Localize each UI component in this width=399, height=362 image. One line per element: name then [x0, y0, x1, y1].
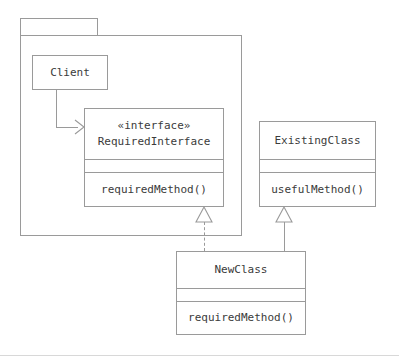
- operation-required-interface-0: requiredMethod(): [101, 182, 207, 198]
- class-box-new-class[interactable]: NewClass requiredMethod(): [176, 251, 306, 335]
- class-header-new-class: NewClass: [177, 252, 305, 288]
- class-attributes-existing-class: [260, 159, 375, 172]
- class-operations-required-interface: requiredMethod(): [85, 172, 223, 206]
- uml-class-diagram-canvas: Client «interface» RequiredInterface req…: [0, 0, 399, 362]
- hollow-triangle-icon-realization: [195, 206, 213, 223]
- class-operations-existing-class: usefulMethod(): [260, 172, 375, 206]
- operation-new-class-0: requiredMethod(): [188, 310, 294, 326]
- dependency-client-requiredinterface-segment-vertical: [56, 90, 57, 127]
- generalization-newclass-existingclass-line: [284, 222, 285, 251]
- class-box-required-interface[interactable]: «interface» RequiredInterface requiredMe…: [84, 108, 224, 207]
- class-header-client: Client: [33, 56, 107, 89]
- class-name-client: Client: [50, 65, 90, 81]
- hollow-triangle-icon-generalization: [275, 206, 293, 223]
- class-attributes-required-interface: [85, 159, 223, 172]
- class-box-client[interactable]: Client: [32, 55, 108, 90]
- class-name-existing-class: ExistingClass: [274, 133, 360, 149]
- class-name-new-class: NewClass: [215, 262, 268, 278]
- class-operations-new-class: requiredMethod(): [177, 301, 305, 334]
- class-box-existing-class[interactable]: ExistingClass usefulMethod(): [259, 121, 376, 207]
- realization-newclass-requiredinterface-line: [204, 222, 205, 251]
- operation-existing-class-0: usefulMethod(): [271, 182, 364, 198]
- package-tab: [20, 18, 98, 36]
- package-tab-label: [21, 19, 97, 36]
- class-header-existing-class: ExistingClass: [260, 122, 375, 159]
- class-header-required-interface: «interface» RequiredInterface: [85, 109, 223, 159]
- class-attributes-new-class: [177, 288, 305, 301]
- class-name-required-interface: RequiredInterface: [98, 134, 211, 150]
- class-stereotype-required-interface: «interface»: [118, 118, 191, 134]
- open-arrow-icon-client-requiredinterface: [74, 119, 88, 135]
- footer-divider: [0, 355, 399, 356]
